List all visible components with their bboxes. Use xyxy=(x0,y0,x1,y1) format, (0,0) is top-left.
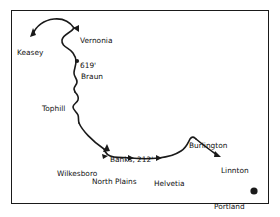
place-label-helvetia: Helvetia xyxy=(154,163,185,205)
portland-marker-icon xyxy=(250,187,257,194)
route-segment-tophill-descent xyxy=(73,92,79,123)
place-label-keasey: Keasey xyxy=(17,33,43,74)
route-segment-vernonia-braun xyxy=(62,28,76,61)
route-map-figure: Keasey Vernonia 619' Braun Tophill Banks… xyxy=(0,0,280,217)
place-label-portland: Portland xyxy=(214,186,245,217)
vernonia-name: Vernonia xyxy=(80,37,112,45)
keasey-name: Keasey xyxy=(17,49,43,57)
burlington-name: Burlington xyxy=(189,142,227,150)
tophill-name: Tophill xyxy=(42,105,65,113)
place-label-braun: Braun xyxy=(81,56,103,98)
route-segment-braun-tophill xyxy=(74,61,77,92)
portland-name: Portland xyxy=(214,203,245,211)
banks-marker-icon xyxy=(103,144,110,152)
vernonia-marker-icon xyxy=(73,25,79,32)
route-segment-keasey-vernonia xyxy=(33,19,74,34)
braun-marker-icon xyxy=(75,59,79,63)
north-plains-name: North Plains xyxy=(92,178,137,186)
helvetia-name: Helvetia xyxy=(154,180,185,188)
place-label-tophill: Tophill xyxy=(42,88,65,130)
helvetia-marker-icon xyxy=(156,155,162,161)
linnton-name: Linnton xyxy=(221,167,249,175)
place-label-north-plains: North Plains xyxy=(92,161,137,203)
braun-name: Braun xyxy=(81,73,103,81)
route-segment-descent-banks xyxy=(79,123,104,149)
